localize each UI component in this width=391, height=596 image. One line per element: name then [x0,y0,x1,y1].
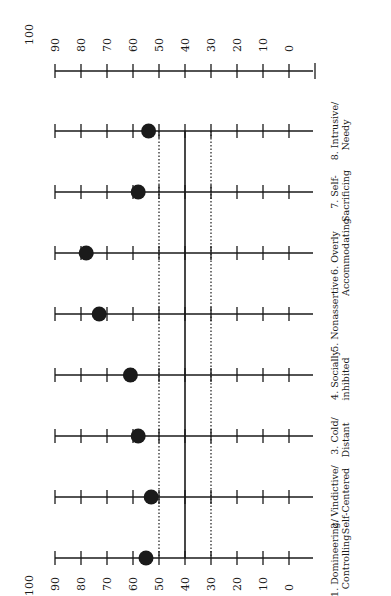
category-label-line2: Sacrificing [340,170,351,222]
data-point [92,307,107,322]
data-point [131,185,146,200]
category-label-line1: 7. Self- [329,175,340,209]
category-label-line2: Distant [340,422,351,457]
category-label-line2: inhibited [340,358,351,401]
top-axis-tick-label: 30 [205,38,218,52]
data-point [141,124,156,139]
category-label-line2: Controlling [340,535,351,590]
bottom-axis-tick-label: 90 [49,577,62,591]
top-axis-labels: 1009080706050403020100 [23,24,296,52]
category-label-line1: 3. Cold/ [329,417,340,455]
bottom-axis-labels: 1009080706050403020100 [23,575,296,596]
top-axis-tick-label: 50 [153,38,166,52]
data-point [139,551,154,566]
interpersonal-scale-chart: 1009080706050403020100 10090807060504030… [0,0,391,596]
scale-row [55,185,313,200]
bottom-axis-tick-label: 10 [257,577,270,591]
top-axis-tick-label: 70 [101,38,114,52]
scale-row [55,551,313,566]
scale-row [55,368,313,383]
category-label-line2: Accommodating [340,218,351,297]
bottom-axis-tick-label: 40 [179,577,192,591]
top-axis-tick-label: 0 [283,45,296,52]
bottom-axis-tick-label: 80 [75,577,88,591]
bottom-axis-tick-label: 50 [153,577,166,591]
category-label-line1: 8. Intrusive/ [329,101,340,160]
scale-row [55,124,313,139]
top-axis-scale [55,63,315,79]
category-label-line1: 5. Nonassertive [329,276,340,352]
data-point [79,246,94,261]
bottom-axis-tick-label: 100 [23,575,36,596]
bottom-axis-tick-label: 60 [127,577,140,591]
top-axis-tick-label: 10 [257,38,270,52]
category-label-line1: 1. Domineering/ [329,518,340,596]
data-point [131,429,146,444]
scale-row [55,246,313,261]
category-labels: 1. Domineering/Controlling2. Vindictive/… [329,101,351,596]
bottom-axis-tick-label: 30 [205,577,218,591]
category-label-line2: Self-Centered [340,468,351,534]
scale-row [55,490,313,505]
data-point [144,490,159,505]
bottom-axis-tick-label: 0 [283,584,296,591]
top-axis-tick-label: 20 [231,38,244,52]
category-label-line2: Needy [340,119,351,151]
scale-row [55,429,313,444]
bottom-axis-tick-label: 20 [231,577,244,591]
top-axis-tick-label: 90 [49,38,62,52]
category-label-line1: 2. Vindictive/ [329,464,340,528]
scale-row [55,307,313,322]
category-label-line1: 4. Socially [329,349,340,399]
bottom-axis-tick-label: 70 [101,577,114,591]
top-axis-tick-label: 100 [23,24,36,45]
top-axis-tick-label: 60 [127,38,140,52]
top-axis-tick-label: 40 [179,38,192,52]
data-point [123,368,138,383]
category-label-line1: 6. Overly [329,230,340,274]
top-axis-tick-label: 80 [75,38,88,52]
